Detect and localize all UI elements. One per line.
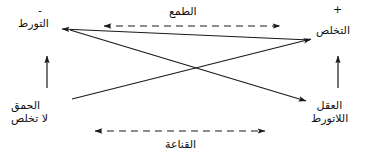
corner-label-bottom-right-line-1: العقل	[311, 99, 342, 112]
corner-label-bottom-left-line-1: الحمق	[11, 99, 40, 112]
bottom-relation-label: القناعة	[165, 138, 196, 151]
corner-label-bottom-right: العقل اللاتورط	[311, 99, 348, 125]
diagonal-topleft-to-bottomright-arrow	[70, 30, 306, 101]
corner-label-top-left: التورط	[18, 17, 49, 30]
corner-label-bottom-right-line-2: اللاتورط	[311, 112, 348, 125]
corner-label-bottom-left: الحمق لا تخلص	[11, 99, 40, 125]
top-relation-label: الطمع	[169, 5, 197, 18]
corner-label-top-right-line-1: التخلص	[316, 24, 350, 37]
plus-sign-icon: +	[333, 4, 342, 15]
diagonal-topright-to-topleft-arrow	[62, 29, 310, 40]
corner-label-bottom-left-line-2: لا تخلص	[11, 112, 74, 125]
semiotic-square-diagram: - + التورط التخلص الحمق لا تخلص العقل ال…	[0, 0, 373, 156]
corner-label-top-right: التخلص	[316, 24, 350, 37]
diagonal-bottomleft-to-topright-arrow	[72, 39, 311, 99]
minus-sign-icon: -	[38, 5, 42, 16]
corner-label-top-left-line-1: التورط	[18, 17, 49, 30]
